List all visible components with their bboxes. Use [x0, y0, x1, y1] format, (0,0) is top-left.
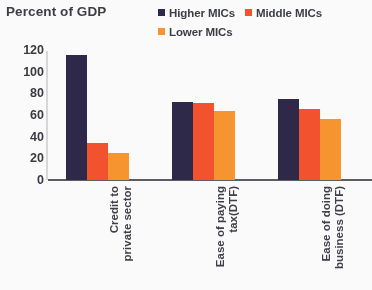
x-axis-category-label-line: tax(DTF)	[227, 186, 240, 286]
x-axis-category-label: Ease of doingbusiness (DTF)	[320, 186, 346, 286]
bar-lower-mics-group-1	[108, 153, 129, 180]
y-axis-tick-100: 100	[4, 65, 44, 78]
legend-label-lower-mics: Lower MICs	[169, 26, 233, 38]
x-axis-category-label-line: Ease of paying	[214, 186, 227, 286]
y-axis-tick-20: 20	[4, 152, 44, 165]
legend-swatch-middle-mics	[245, 9, 252, 16]
y-axis-tick-labels: 120100806040200	[0, 0, 44, 290]
x-axis-category-label-line: business (DTF)	[333, 186, 346, 286]
bar-group	[66, 50, 129, 180]
bar-higher-mics-group-2	[172, 102, 193, 180]
bar-middle-mics-group-2	[193, 103, 214, 180]
y-axis-tick-80: 80	[4, 87, 44, 100]
bar-higher-mics-group-1	[66, 55, 87, 180]
x-axis-category-label: Credit toprivate sector	[108, 186, 134, 286]
x-axis-category-label-line: Credit to	[108, 186, 121, 286]
legend-swatch-lower-mics	[158, 28, 165, 35]
y-axis-tick-60: 60	[4, 109, 44, 122]
chart-image: Percent of GDP Higher MICs Middle MICs L…	[0, 0, 372, 290]
bar-group	[278, 50, 341, 180]
legend-item-lower-mics: Lower MICs	[158, 23, 233, 40]
y-axis-tick-120: 120	[4, 44, 44, 57]
bar-lower-mics-group-3	[320, 119, 341, 180]
x-axis-category-label-line: private sector	[121, 186, 134, 286]
bar-higher-mics-group-3	[278, 99, 299, 180]
y-axis-tick-0: 0	[4, 174, 44, 187]
legend-label-higher-mics: Higher MICs	[169, 7, 235, 19]
legend-item-middle-mics: Middle MICs	[245, 4, 322, 21]
plot-area	[48, 50, 372, 180]
bar-group	[172, 50, 235, 180]
bar-lower-mics-group-2	[214, 111, 235, 180]
y-axis-tick-40: 40	[4, 130, 44, 143]
bar-middle-mics-group-3	[299, 109, 320, 181]
x-axis-category-label-line: Ease of doing	[320, 186, 333, 286]
legend-swatch-higher-mics	[158, 9, 165, 16]
chart-legend: Higher MICs Middle MICs Lower MICs	[158, 4, 372, 40]
x-axis-category-label: Ease of payingtax(DTF)	[214, 186, 240, 286]
legend-label-middle-mics: Middle MICs	[256, 7, 322, 19]
bar-middle-mics-group-1	[87, 143, 108, 180]
legend-item-higher-mics: Higher MICs	[158, 4, 235, 21]
